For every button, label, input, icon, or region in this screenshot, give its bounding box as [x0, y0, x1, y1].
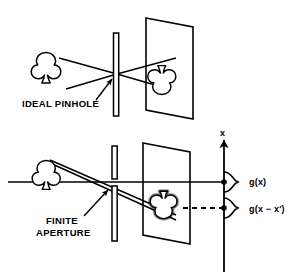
pinhole-camera-figure: IDEAL PINHOLE — [0, 0, 300, 279]
panel-finite-aperture: FINITE APERTURE — [8, 143, 222, 244]
arrow-to-aperture — [84, 190, 108, 216]
psf-center-dot — [221, 179, 227, 185]
object-club-top — [31, 53, 61, 83]
arrow-to-pinhole — [96, 79, 112, 100]
psf-shift-dot — [221, 205, 227, 211]
projection-screen-top — [146, 18, 193, 119]
psf-label-centered: g(x) — [249, 177, 266, 187]
finite-aperture-barrier — [112, 146, 117, 241]
psf-plot: x g(x) g(x − x′) — [183, 128, 285, 272]
object-club-bottom — [32, 161, 60, 190]
x-axis-label: x — [220, 128, 225, 138]
image-club-blurred — [149, 190, 179, 221]
panel-ideal-pinhole: IDEAL PINHOLE — [22, 18, 193, 119]
psf-label-shifted: g(x − x′) — [249, 204, 285, 214]
caption-ideal-pinhole: IDEAL PINHOLE — [22, 98, 99, 109]
figure-canvas: IDEAL PINHOLE — [0, 0, 300, 279]
pinhole-barrier — [114, 33, 119, 116]
caption-finite-line2: APERTURE — [36, 227, 91, 238]
caption-finite-line1: FINITE — [46, 215, 78, 226]
